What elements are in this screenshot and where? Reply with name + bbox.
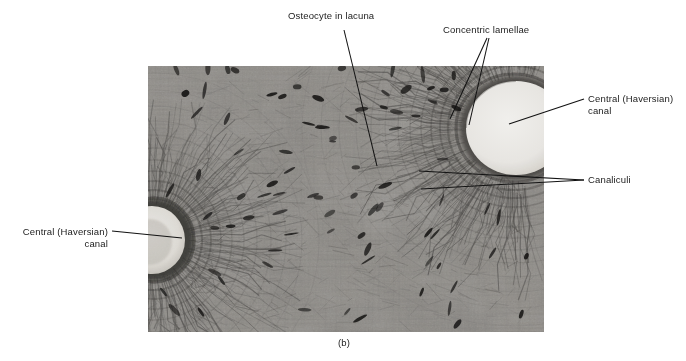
figure-container: Osteocyte in lacuna Concentric lamellae … bbox=[0, 0, 686, 361]
figure-caption: (b) bbox=[338, 337, 350, 348]
label-central-haversian-canal-left: Central (Haversian) canal bbox=[12, 226, 108, 250]
label-osteocyte-in-lacuna: Osteocyte in lacuna bbox=[288, 10, 374, 22]
label-central-haversian-canal-right: Central (Haversian) canal bbox=[588, 93, 673, 117]
label-canaliculi: Canaliculi bbox=[588, 174, 631, 186]
micrograph-canvas bbox=[148, 66, 544, 332]
label-concentric-lamellae: Concentric lamellae bbox=[443, 24, 529, 36]
bone-micrograph-image bbox=[148, 66, 544, 332]
